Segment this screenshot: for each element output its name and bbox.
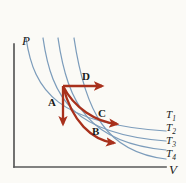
pv-diagram-figure: P V T1 T2 T3 T4 A B C D xyxy=(0,0,186,183)
isotherm-label-t4-sub: 4 xyxy=(172,153,176,162)
process-label-a: A xyxy=(48,97,56,108)
process-label-c: C xyxy=(98,108,106,119)
x-axis-label: V xyxy=(169,163,177,176)
isotherm-curve-t3 xyxy=(58,38,166,150)
diagram-canvas xyxy=(0,0,186,183)
isotherm-curves xyxy=(26,38,166,159)
process-label-b: B xyxy=(92,126,99,137)
isotherm-curve-t4 xyxy=(74,38,166,159)
isotherm-label-t4: T4 xyxy=(166,148,176,162)
y-axis-label: P xyxy=(22,34,30,47)
isotherm-curve-t2 xyxy=(43,38,166,141)
axis-lines xyxy=(14,44,166,167)
process-label-d: D xyxy=(82,71,90,82)
